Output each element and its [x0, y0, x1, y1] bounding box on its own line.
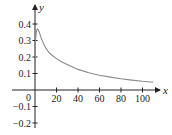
x-axis-label: x — [162, 84, 168, 96]
y-axis-label: y — [38, 1, 44, 13]
y-tick-label: 0.3 — [19, 35, 32, 46]
data-curve — [35, 29, 153, 82]
y-tick-label: 0.2 — [19, 52, 32, 63]
y-tick-label: 0.1 — [19, 68, 32, 79]
x-tick-label: 60 — [95, 93, 105, 104]
x-tick-label: 40 — [73, 93, 83, 104]
y-tick-label: −0.2 — [13, 118, 31, 129]
line-chart: 20406080100 0.40.30.20.1−0.1−0.2 x y 0 — [0, 0, 172, 135]
x-tick-label: 100 — [135, 93, 150, 104]
axes — [12, 5, 160, 128]
y-ticks: 0.40.30.20.1−0.1−0.2 — [13, 19, 38, 129]
x-tick-label: 80 — [116, 93, 126, 104]
x-tick-label: 20 — [52, 93, 62, 104]
y-tick-label: 0.4 — [19, 19, 32, 30]
origin-label: 0 — [26, 92, 31, 103]
